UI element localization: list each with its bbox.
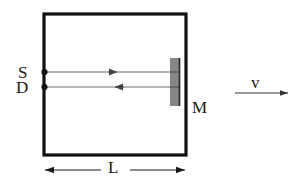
physics-diagram — [0, 0, 300, 186]
length-label: L — [108, 159, 118, 176]
velocity-label: v — [251, 74, 260, 91]
mirror-label: M — [192, 99, 207, 116]
mirror-hatching — [170, 58, 180, 106]
detector-point — [41, 84, 47, 90]
diagram-canvas: S D M v L — [0, 0, 300, 186]
detector-label: D — [16, 79, 28, 96]
source-point — [41, 69, 47, 75]
cavity-box — [44, 14, 186, 155]
